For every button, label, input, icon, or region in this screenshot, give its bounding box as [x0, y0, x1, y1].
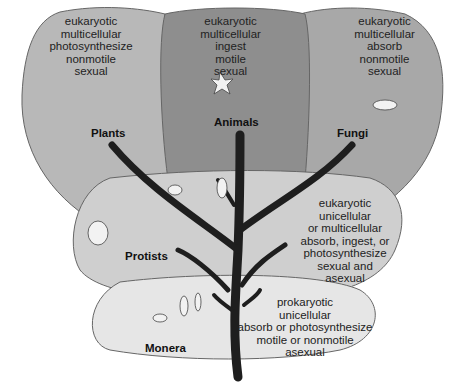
monera-traits: prokaryotic unicellular absorb or photos…	[235, 296, 375, 359]
protists-traits: eukaryotic unicellular or multicellular …	[295, 197, 395, 285]
animals-label: Animals	[214, 116, 259, 128]
plants-traits: eukaryotic multicellular photosynthesize…	[36, 15, 146, 78]
fungi-traits: eukaryotic multicellular absorb nonmotil…	[342, 15, 427, 78]
plants-label: Plants	[91, 127, 126, 139]
protists-label: Protists	[125, 250, 168, 262]
monera-label: Monera	[145, 342, 186, 354]
fungi-label: Fungi	[337, 127, 368, 139]
animals-traits: eukaryotic multicellular ingest motile s…	[183, 15, 278, 78]
